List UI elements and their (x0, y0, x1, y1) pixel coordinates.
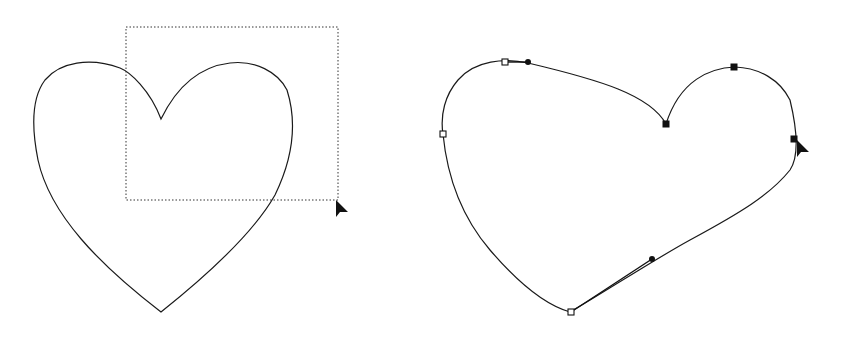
left-panel (34, 27, 348, 312)
anchor-point-top-left-hollow[interactable] (502, 59, 508, 65)
arrow-cursor-icon (336, 200, 348, 217)
right-panel (440, 59, 809, 315)
anchor-point-left-hollow[interactable] (440, 131, 446, 137)
bezier-handle-dot[interactable] (649, 256, 655, 262)
anchor-points[interactable] (440, 59, 797, 315)
bezier-handle-line (571, 259, 652, 312)
anchor-point-cleft-solid[interactable] (663, 121, 669, 127)
anchor-point-top-right-solid[interactable] (731, 64, 737, 70)
heart-shape-right[interactable] (442, 61, 796, 312)
heart-shape-left[interactable] (34, 62, 293, 312)
arrow-cursor-icon (797, 140, 809, 157)
marquee-selection-rect (126, 27, 338, 200)
anchor-point-bottom-hollow[interactable] (568, 309, 574, 315)
bezier-handle-dot[interactable] (525, 59, 531, 65)
anchor-point-right-solid[interactable] (791, 136, 797, 142)
drawing-canvas[interactable] (0, 0, 844, 339)
